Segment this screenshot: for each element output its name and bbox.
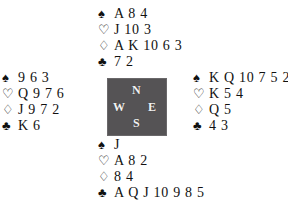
hand-south-clubs: A Q J 10 9 8 5 bbox=[112, 185, 205, 201]
hand-west-spades: 9 6 3 bbox=[16, 70, 50, 86]
hand-east-clubs: 4 3 bbox=[207, 118, 229, 134]
diamond-icon: ♢ bbox=[98, 169, 112, 185]
hand-west-diamonds: J 9 7 2 bbox=[16, 102, 60, 118]
spade-icon: ♠ bbox=[98, 6, 112, 22]
diamond-icon: ♢ bbox=[2, 102, 16, 118]
compass-label-west: W bbox=[113, 101, 125, 113]
hand-east-diamonds: Q 5 bbox=[207, 102, 232, 118]
hand-north-hearts: J 10 3 bbox=[112, 22, 152, 38]
hand-north-spade-row: ♠ A 8 4 bbox=[98, 6, 182, 22]
club-icon: ♣ bbox=[98, 185, 112, 201]
hand-south-spades: J bbox=[112, 137, 120, 153]
hand-north-diamonds: A K 10 6 3 bbox=[112, 38, 182, 54]
hand-west-diamond-row: ♢ J 9 7 2 bbox=[2, 102, 65, 118]
heart-icon: ♡ bbox=[2, 86, 16, 102]
hand-east-spade-row: ♠ K Q 10 7 5 2 bbox=[193, 70, 288, 86]
hand-south-diamond-row: ♢ 8 4 bbox=[98, 169, 205, 185]
hand-north-clubs: 7 2 bbox=[112, 54, 134, 70]
heart-icon: ♡ bbox=[98, 22, 112, 38]
compass-label-north: N bbox=[132, 84, 141, 96]
club-icon: ♣ bbox=[2, 118, 16, 134]
hand-south-hearts: A 8 2 bbox=[112, 153, 148, 169]
hand-west-hearts: Q 9 7 6 bbox=[16, 86, 65, 102]
hand-west: ♠ 9 6 3 ♡ Q 9 7 6 ♢ J 9 7 2 ♣ K 6 bbox=[2, 70, 65, 134]
hand-south-spade-row: ♠ J bbox=[98, 137, 205, 153]
hand-north-spades: A 8 4 bbox=[112, 6, 148, 22]
hand-north: ♠ A 8 4 ♡ J 10 3 ♢ A K 10 6 3 ♣ 7 2 bbox=[98, 6, 182, 70]
diamond-icon: ♢ bbox=[98, 38, 112, 54]
hand-west-spade-row: ♠ 9 6 3 bbox=[2, 70, 65, 86]
hand-south-club-row: ♣ A Q J 10 9 8 5 bbox=[98, 185, 205, 201]
hand-north-club-row: ♣ 7 2 bbox=[98, 54, 182, 70]
hand-east: ♠ K Q 10 7 5 2 ♡ K 5 4 ♢ Q 5 ♣ 4 3 bbox=[193, 70, 288, 134]
compass-box: N W E S bbox=[107, 78, 167, 136]
spade-icon: ♠ bbox=[193, 70, 207, 86]
heart-icon: ♡ bbox=[193, 86, 207, 102]
bridge-deal-diagram: ♠ A 8 4 ♡ J 10 3 ♢ A K 10 6 3 ♣ 7 2 ♠ 9 … bbox=[0, 0, 288, 207]
hand-east-club-row: ♣ 4 3 bbox=[193, 118, 288, 134]
compass-label-east: E bbox=[148, 101, 156, 113]
club-icon: ♣ bbox=[193, 118, 207, 134]
hand-south-heart-row: ♡ A 8 2 bbox=[98, 153, 205, 169]
hand-south-diamonds: 8 4 bbox=[112, 169, 134, 185]
hand-north-diamond-row: ♢ A K 10 6 3 bbox=[98, 38, 182, 54]
spade-icon: ♠ bbox=[98, 137, 112, 153]
diamond-icon: ♢ bbox=[193, 102, 207, 118]
heart-icon: ♡ bbox=[98, 153, 112, 169]
hand-west-club-row: ♣ K 6 bbox=[2, 118, 65, 134]
hand-west-clubs: K 6 bbox=[16, 118, 41, 134]
hand-south: ♠ J ♡ A 8 2 ♢ 8 4 ♣ A Q J 10 9 8 5 bbox=[98, 137, 205, 201]
hand-east-heart-row: ♡ K 5 4 bbox=[193, 86, 288, 102]
hand-north-heart-row: ♡ J 10 3 bbox=[98, 22, 182, 38]
hand-east-diamond-row: ♢ Q 5 bbox=[193, 102, 288, 118]
hand-west-heart-row: ♡ Q 9 7 6 bbox=[2, 86, 65, 102]
hand-east-hearts: K 5 4 bbox=[207, 86, 244, 102]
compass-label-south: S bbox=[133, 117, 140, 129]
hand-east-spades: K Q 10 7 5 2 bbox=[207, 70, 288, 86]
club-icon: ♣ bbox=[98, 54, 112, 70]
spade-icon: ♠ bbox=[2, 70, 16, 86]
